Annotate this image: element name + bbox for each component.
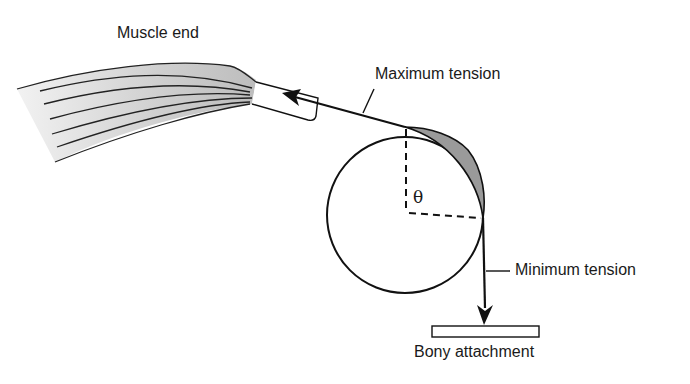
max-tension-leader <box>363 89 374 113</box>
bony-attachment-bar <box>432 326 539 337</box>
radius-horizontal-dashed <box>409 213 481 218</box>
label-minimum-tension: Minimum tension <box>515 261 636 279</box>
label-maximum-tension: Maximum tension <box>375 65 500 83</box>
label-muscle-end: Muscle end <box>117 24 199 42</box>
label-bony-attachment: Bony attachment <box>414 343 534 361</box>
pulley-diagram <box>0 0 690 384</box>
muscle-body <box>17 63 256 162</box>
label-angle-theta: θ <box>413 187 423 207</box>
